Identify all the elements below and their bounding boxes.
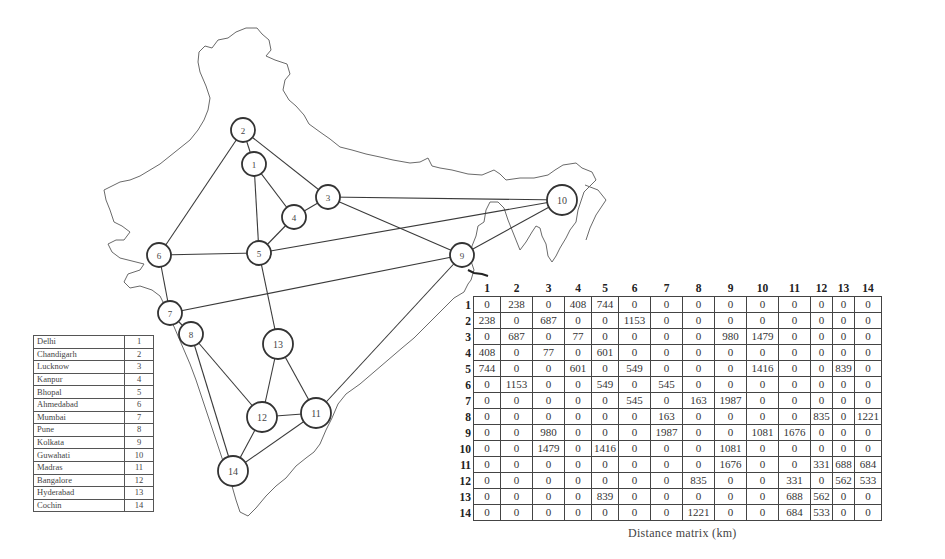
distance-cell: 1479 (533, 441, 565, 457)
distance-cell: 839 (592, 489, 619, 505)
node-label: 8 (189, 330, 194, 340)
distance-cell: 0 (833, 329, 855, 345)
row-header: 12 (458, 473, 474, 489)
distance-cell: 0 (474, 377, 501, 393)
distance-cell: 0 (715, 297, 747, 313)
node-label: 6 (157, 251, 162, 261)
legend-city: Chandigarh (34, 348, 125, 361)
distance-cell: 0 (833, 409, 855, 425)
node-label: 10 (557, 195, 567, 206)
legend-id: 1 (125, 336, 154, 349)
row-header: 4 (458, 345, 474, 361)
distance-cell: 0 (533, 297, 565, 313)
distance-cell: 0 (811, 393, 833, 409)
node-label: 3 (326, 193, 331, 203)
matrix-row: 30687077000098014790000 (458, 329, 882, 345)
distance-cell: 1221 (855, 409, 882, 425)
distance-cell: 331 (779, 473, 811, 489)
distance-cell: 0 (651, 345, 683, 361)
node-3: 3 (316, 185, 340, 209)
distance-cell: 1479 (747, 329, 779, 345)
distance-cell: 0 (533, 377, 565, 393)
distance-cell: 408 (474, 345, 501, 361)
row-header: 10 (458, 441, 474, 457)
distance-cell: 1153 (619, 313, 651, 329)
distance-cell: 1081 (747, 425, 779, 441)
legend-id: 11 (125, 461, 154, 474)
row-header: 13 (458, 489, 474, 505)
distance-cell: 0 (533, 457, 565, 473)
edge-2-6 (159, 130, 243, 255)
distance-cell: 0 (565, 473, 592, 489)
distance-cell: 0 (855, 361, 882, 377)
distance-cell: 0 (779, 297, 811, 313)
distance-cell: 0 (683, 377, 715, 393)
row-header: 7 (458, 393, 474, 409)
distance-cell: 0 (651, 329, 683, 345)
distance-cell: 0 (565, 377, 592, 393)
distance-cell: 0 (565, 313, 592, 329)
distance-cell: 684 (779, 505, 811, 521)
distance-cell: 408 (565, 297, 592, 313)
distance-cell: 0 (651, 313, 683, 329)
distance-cell: 980 (533, 425, 565, 441)
legend-city: Mumbai (34, 411, 125, 424)
row-header: 3 (458, 329, 474, 345)
node-5: 5 (247, 241, 271, 265)
row-header: 1 (458, 297, 474, 313)
distance-cell: 0 (779, 329, 811, 345)
column-header: 5 (592, 280, 619, 297)
column-header: 10 (747, 280, 779, 297)
distance-cell: 0 (619, 297, 651, 313)
distance-cell: 0 (779, 457, 811, 473)
distance-cell: 0 (683, 297, 715, 313)
distance-matrix: 1234567891011121314 10238040874400000000… (458, 280, 882, 521)
column-header: 1 (474, 280, 501, 297)
legend-row: Delhi1 (34, 336, 154, 349)
distance-cell: 0 (474, 441, 501, 457)
distance-cell: 744 (474, 361, 501, 377)
distance-cell: 545 (619, 393, 651, 409)
matrix-row: 1300008390000068856200 (458, 489, 882, 505)
legend-row: Madras11 (34, 461, 154, 474)
matrix-row: 7000005450163198700000 (458, 393, 882, 409)
node-9: 9 (450, 243, 474, 267)
distance-cell: 0 (619, 329, 651, 345)
distance-cell: 0 (715, 425, 747, 441)
distance-cell: 0 (592, 409, 619, 425)
distance-cell: 0 (501, 473, 533, 489)
distance-cell: 0 (747, 489, 779, 505)
node-2: 2 (231, 118, 255, 142)
distance-cell: 0 (811, 297, 833, 313)
distance-cell: 0 (501, 457, 533, 473)
distance-cell: 0 (533, 489, 565, 505)
legend-row: Kolkata9 (34, 436, 154, 449)
distance-cell: 0 (619, 505, 651, 521)
distance-cell: 688 (833, 457, 855, 473)
distance-cell: 0 (833, 441, 855, 457)
distance-cell: 0 (592, 329, 619, 345)
distance-cell: 0 (565, 457, 592, 473)
node-7: 7 (158, 301, 182, 325)
distance-cell: 533 (855, 473, 882, 489)
distance-cell: 238 (474, 313, 501, 329)
node-6: 6 (147, 243, 171, 267)
distance-cell: 0 (533, 393, 565, 409)
distance-cell: 0 (592, 505, 619, 521)
node-1: 1 (242, 152, 266, 176)
distance-cell: 1987 (651, 425, 683, 441)
distance-cell: 1081 (715, 441, 747, 457)
distance-cell: 0 (747, 441, 779, 457)
edge-3-10 (328, 197, 562, 200)
distance-cell: 0 (833, 313, 855, 329)
distance-cell: 0 (855, 393, 882, 409)
distance-cell: 0 (683, 441, 715, 457)
matrix-row: 44080770601000000000 (458, 345, 882, 361)
distance-cell: 0 (501, 425, 533, 441)
node-13: 13 (263, 329, 293, 359)
distance-cell: 0 (565, 409, 592, 425)
distance-cell: 0 (855, 489, 882, 505)
distance-cell: 0 (619, 377, 651, 393)
distance-cell: 0 (683, 457, 715, 473)
distance-cell: 0 (833, 297, 855, 313)
